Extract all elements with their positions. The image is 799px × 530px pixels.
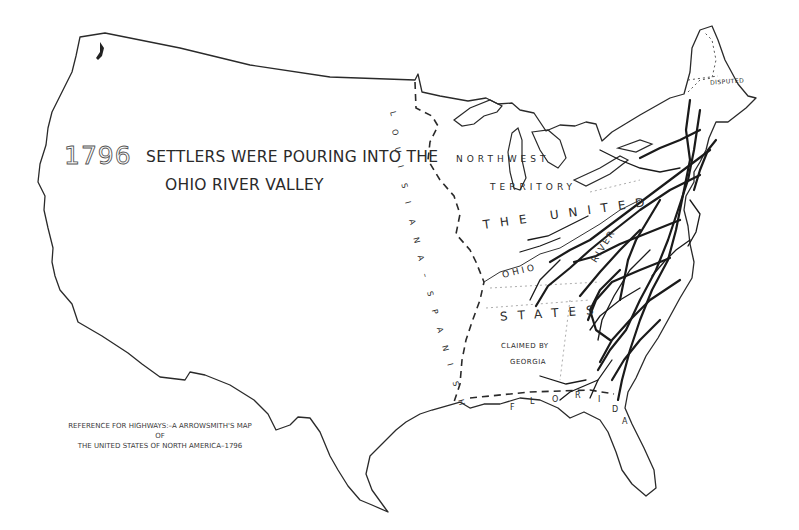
reference-line3: THE UNITED STATES OF NORTH AMERICA–1796: [77, 442, 243, 450]
louisiana-letter: S: [399, 182, 409, 189]
louisiana-letter: N: [440, 344, 450, 352]
label-territory: TERRITORY: [489, 182, 576, 192]
florida-letter: R: [575, 391, 581, 400]
label-ohio: OHIO: [501, 262, 538, 280]
historical-map: 1796 SETTLERS WERE POURING INTO THE OHIO…: [0, 0, 799, 530]
mississippi-boundary: [415, 82, 484, 402]
map-year: 1796: [64, 141, 132, 170]
lake-superior: [454, 100, 502, 126]
lake-ontario: [618, 140, 652, 152]
us-outline: [38, 26, 756, 512]
louisiana-letter: S: [425, 290, 435, 297]
louisiana-letter: A: [407, 218, 417, 226]
louisiana-letter: N: [411, 236, 421, 244]
label-georgia: GEORGIA: [510, 358, 546, 366]
state-line: [590, 180, 640, 192]
louisiana-letter: I: [403, 200, 412, 205]
louisiana-letter: L: [388, 110, 398, 117]
label-claimed-by: CLAIMED BY: [501, 342, 549, 350]
florida-letter: O: [552, 395, 558, 404]
puget-sound: [96, 42, 104, 60]
louisiana-letter: I: [445, 362, 454, 367]
louisiana-letter: A: [435, 326, 445, 334]
label-disputed: DISPUTED: [710, 76, 745, 85]
louisiana-letter: –: [420, 272, 430, 278]
reference-line2: OF: [155, 432, 165, 440]
florida-letter: I: [598, 395, 600, 404]
florida-letter: F: [510, 403, 515, 412]
louisiana-letter: P: [430, 308, 440, 315]
label-northwest: NORTHWEST: [456, 154, 549, 164]
label-florida: FLORIDA: [510, 391, 628, 426]
highway-network: [520, 100, 716, 400]
map-title-line2: OHIO RIVER VALLEY: [165, 176, 324, 194]
florida-letter: A: [622, 417, 628, 426]
reference-line1: REFERENCE FOR HIGHWAYS:–A ARROWSMITH'S M…: [68, 422, 252, 430]
louisiana-letter: O: [390, 128, 400, 136]
florida-letter: D: [612, 405, 618, 414]
state-line: [490, 282, 600, 288]
louisiana-letter: A: [416, 254, 426, 262]
florida-letter: L: [530, 397, 535, 406]
